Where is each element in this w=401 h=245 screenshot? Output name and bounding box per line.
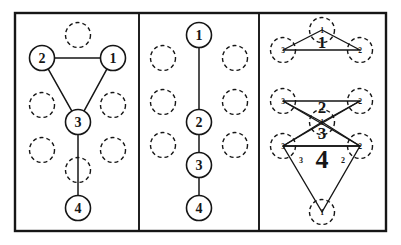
node-mark-label: 3 (281, 142, 285, 151)
figure-container: 21341234132321321321234 (0, 0, 401, 245)
diagram-svg: 21341234132321321321234 (0, 0, 401, 245)
node-mark-label: 2 (341, 156, 345, 165)
node-mark-label: 2 (358, 46, 362, 55)
node-mark-label: 3 (299, 156, 303, 165)
step-number-label: 4 (316, 145, 329, 174)
step-number-label: 3 (318, 124, 327, 143)
graph-node-label: 1 (196, 28, 203, 43)
graph-node-label: 3 (196, 158, 203, 173)
node-mark-label: 1 (320, 208, 324, 217)
graph-node-label: 3 (75, 115, 82, 130)
step-number-label: 2 (318, 98, 327, 117)
graph-node-label: 1 (110, 51, 117, 66)
graph-node-label: 2 (39, 51, 46, 66)
graph-node-label: 4 (75, 201, 82, 216)
step-number-label: 1 (318, 33, 327, 52)
node-mark-label: 2 (358, 142, 362, 151)
node-mark-label: 3 (281, 97, 285, 106)
graph-node-label: 4 (196, 201, 203, 216)
node-mark-label: 3 (281, 46, 285, 55)
graph-node-label: 2 (196, 115, 203, 130)
node-mark-label: 2 (358, 97, 362, 106)
